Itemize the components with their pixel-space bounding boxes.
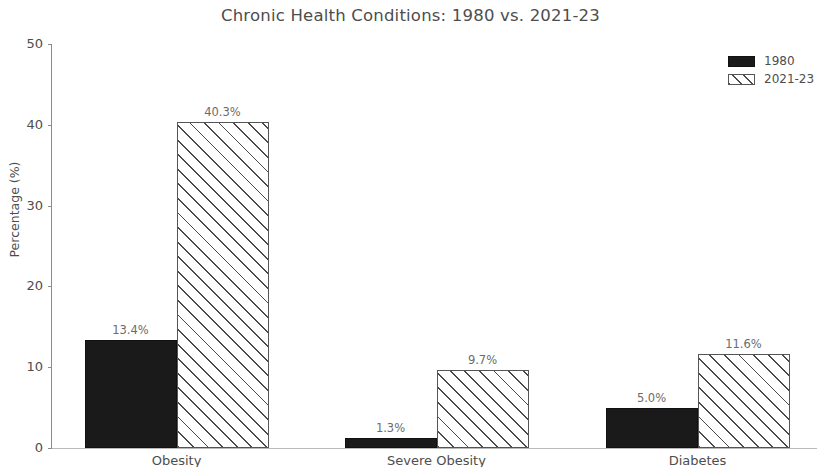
bar-obesity-2021-23: 40.3% — [177, 122, 269, 448]
x-axis-label-severe-obesity: Severe Obesity — [387, 453, 486, 467]
y-axis-tick-label: 30 — [26, 198, 43, 213]
bar-value-label: 40.3% — [204, 105, 241, 119]
bar-value-label: 5.0% — [637, 391, 666, 405]
legend-swatch-1980 — [728, 56, 755, 67]
y-axis-tick: 0 — [0, 448, 52, 449]
chart-figure: Chronic Health Conditions: 1980 vs. 2021… — [0, 0, 821, 467]
legend-label: 1980 — [764, 54, 795, 68]
y-axis-tick-label: 40 — [26, 117, 43, 132]
x-axis-label-diabetes: Diabetes — [669, 453, 727, 467]
y-axis-tick-label: 10 — [26, 359, 43, 374]
y-axis-tick-mark — [48, 448, 52, 449]
legend-swatch-2021-23 — [728, 74, 755, 85]
bar-diabetes-1980: 5.0% — [606, 408, 698, 448]
legend-entry: 2021-23 — [728, 70, 820, 88]
bar-value-label: 9.7% — [468, 353, 497, 367]
y-axis-title: Percentage (%) — [7, 140, 22, 280]
legend-label: 2021-23 — [764, 72, 814, 86]
bar-value-label: 13.4% — [112, 323, 149, 337]
bar-value-label: 1.3% — [376, 421, 405, 435]
bar-severe-obesity-1980: 1.3% — [345, 438, 437, 449]
x-axis-spine — [52, 448, 817, 449]
bar-value-label: 11.6% — [725, 337, 762, 351]
chart-legend: 19802021-23 — [728, 52, 820, 88]
chart-title: Chronic Health Conditions: 1980 vs. 2021… — [0, 6, 821, 25]
bar-obesity-1980: 13.4% — [85, 340, 177, 448]
y-axis-tick: 50 — [0, 44, 52, 45]
bar-severe-obesity-2021-23: 9.7% — [437, 370, 529, 448]
y-axis-tick: 40 — [0, 125, 52, 126]
y-axis-tick: 20 — [0, 286, 52, 287]
y-axis-tick-label: 0 — [35, 440, 43, 455]
bar-diabetes-2021-23: 11.6% — [698, 354, 790, 448]
y-axis-tick: 10 — [0, 367, 52, 368]
y-axis-tick-label: 50 — [26, 36, 43, 51]
legend-entry: 1980 — [728, 52, 820, 70]
plot-area: 13.4%40.3%1.3%9.7%5.0%11.6% — [52, 44, 812, 448]
x-axis-label-obesity: Obesity — [152, 453, 202, 467]
y-axis-tick-label: 20 — [26, 278, 43, 293]
